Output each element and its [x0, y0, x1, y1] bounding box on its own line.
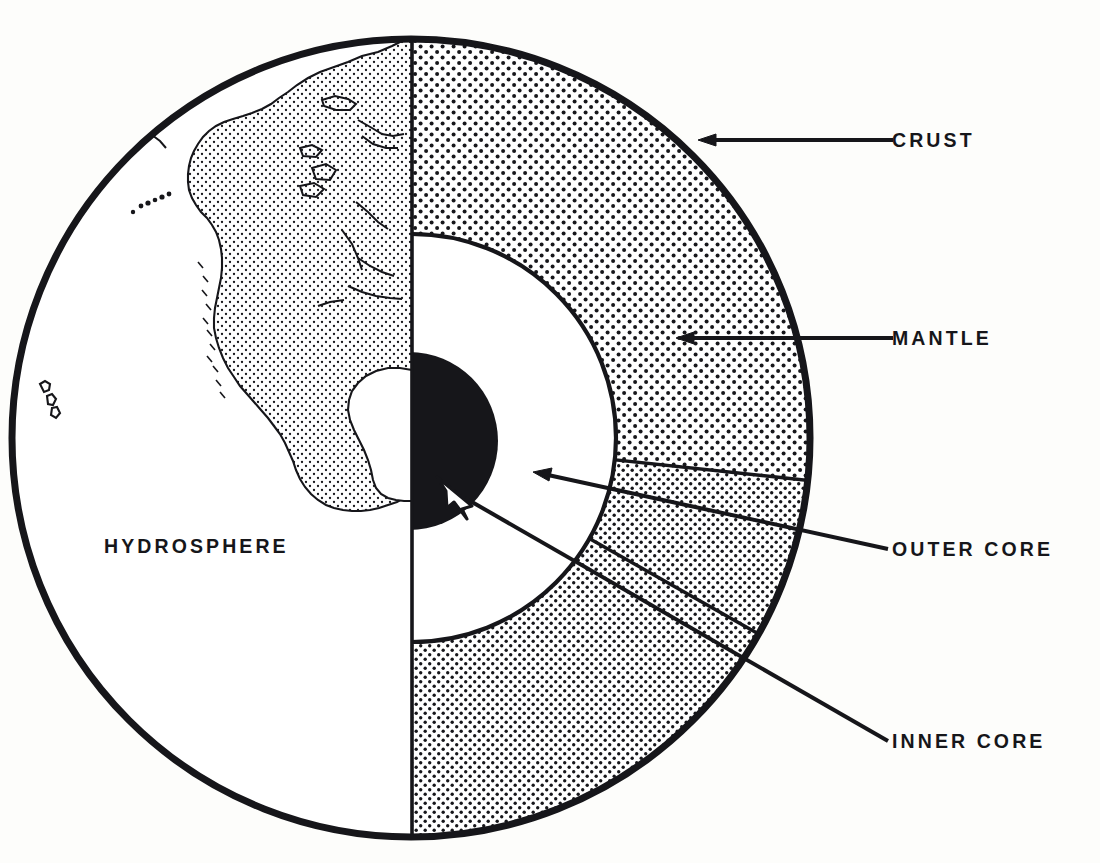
earth-cross-section-svg: CRUST MANTLE OUTER CORE INNER CORE HYDRO… — [0, 0, 1100, 863]
inner-core-label: INNER CORE — [892, 730, 1045, 752]
crust-leader — [698, 134, 893, 146]
hydrosphere-label: HYDROSPHERE — [104, 535, 289, 557]
mantle-label: MANTLE — [892, 327, 992, 349]
crust-label: CRUST — [892, 129, 975, 151]
diagram-canvas: CRUST MANTLE OUTER CORE INNER CORE HYDRO… — [0, 0, 1100, 863]
outer-core-label: OUTER CORE — [892, 538, 1053, 560]
